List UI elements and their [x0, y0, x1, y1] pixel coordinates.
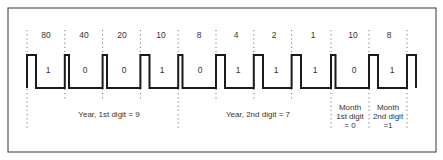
weight-label: 8 [387, 30, 392, 40]
group-labels: Year, 1st digit = 9 Year, 2nd digit = 7 … [78, 103, 404, 130]
bit-value: 1 [274, 65, 279, 75]
weight-label: 4 [234, 30, 239, 40]
bit-encoding-diagram: 80 40 20 10 8 4 2 1 10 8 1 0 0 1 0 1 1 1… [0, 0, 443, 160]
group-label-month-first-digit-line3: = 0 [344, 121, 356, 130]
group-label-month-second-digit-line1: Month [377, 103, 399, 112]
group-label-month-first-digit-line2: 1st digit [336, 112, 364, 121]
group-label-year-second-digit: Year, 2nd digit = 7 [226, 110, 291, 119]
bit-value: 1 [236, 65, 241, 75]
weight-label: 2 [272, 30, 277, 40]
weight-label: 80 [41, 30, 51, 40]
bit-value: 0 [83, 65, 88, 75]
group-label-year-first-digit: Year, 1st digit = 9 [78, 110, 140, 119]
weight-label: 10 [156, 30, 166, 40]
group-label-month-second-digit-line2: 2nd digit [373, 112, 404, 121]
bit-value: 1 [160, 65, 165, 75]
bit-value: 0 [352, 65, 357, 75]
weight-label: 1 [311, 30, 316, 40]
group-label-month-first-digit-line1: Month [339, 103, 361, 112]
bit-value: 0 [198, 65, 203, 75]
bit-value: 1 [313, 65, 318, 75]
bit-value: 1 [46, 65, 51, 75]
bit-value: 0 [122, 65, 127, 75]
group-label-month-second-digit-line3: =1 [383, 121, 393, 130]
weight-label: 20 [117, 30, 127, 40]
weight-label: 40 [79, 30, 89, 40]
weight-label: 10 [348, 30, 358, 40]
weight-label: 8 [197, 30, 202, 40]
bit-value: 1 [390, 65, 395, 75]
diagram-frame [8, 8, 436, 152]
bit-values: 1 0 0 1 0 1 1 1 0 1 [46, 65, 395, 75]
